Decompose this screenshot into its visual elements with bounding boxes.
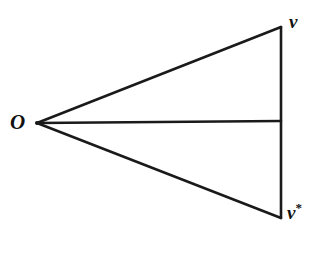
segment-o-v <box>37 27 281 123</box>
label-origin-o: O <box>10 112 25 133</box>
label-vertex-v-star: v* <box>287 203 302 222</box>
label-vertex-v-star-superscript: * <box>295 200 302 215</box>
apex-point-o <box>35 121 39 125</box>
diagram-canvas <box>0 0 315 255</box>
segment-o-vstar <box>37 123 281 218</box>
label-vertex-v: v <box>289 12 297 31</box>
segment-o-midpoint <box>37 121 281 123</box>
